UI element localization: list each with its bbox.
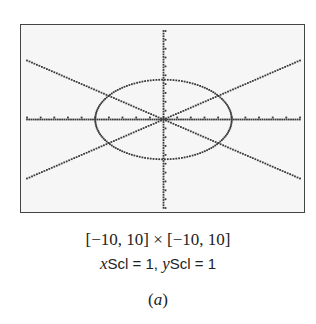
y-scale-text: Scl = 1 bbox=[170, 255, 216, 272]
window-range-text: [−10, 10] × [−10, 10] bbox=[86, 230, 231, 249]
panel-letter: a bbox=[154, 290, 163, 309]
x-scale-text: Scl = 1, bbox=[108, 255, 163, 272]
window-range-label: [−10, 10] × [−10, 10] bbox=[0, 230, 316, 250]
scale-label: xScl = 1, yScl = 1 bbox=[0, 254, 316, 274]
y-scale-var: y bbox=[162, 254, 170, 273]
x-scale-var: x bbox=[100, 254, 108, 273]
calculator-screen bbox=[20, 24, 305, 213]
graph-plot bbox=[21, 25, 306, 214]
panel-paren-close: ) bbox=[162, 290, 168, 309]
panel-label: (a) bbox=[0, 290, 316, 310]
